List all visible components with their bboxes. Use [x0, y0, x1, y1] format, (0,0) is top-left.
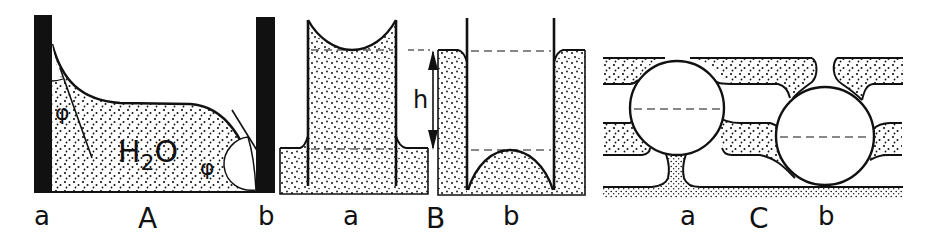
sphere-a — [630, 61, 724, 155]
container-a-surface-left — [280, 136, 308, 148]
bottom-plate-line-left — [603, 154, 669, 187]
panel-label: A — [138, 202, 157, 235]
wall-left — [34, 15, 52, 193]
bottom-bridge — [652, 154, 700, 187]
container-a-surface-right — [396, 136, 428, 148]
panel-b: h a B b — [280, 18, 585, 235]
sublabel-b: b — [503, 201, 520, 231]
top-plate-bottom-right — [862, 84, 903, 100]
angle-label-left: φ — [55, 100, 70, 125]
tube-b-liquid — [468, 150, 553, 194]
container-b-liquid-left — [438, 50, 467, 194]
container-b-liquid-right — [554, 50, 585, 194]
sublabel-a: a — [680, 201, 696, 231]
panel-a: φ φ H2O a A b — [34, 15, 275, 235]
tube-a-liquid — [308, 20, 396, 194]
capillarity-figure: φ φ H2O a A b h — [0, 0, 931, 240]
panel-label: B — [426, 202, 445, 235]
sublabel-b: b — [818, 201, 835, 231]
height-label: h — [413, 86, 428, 114]
wall-right — [256, 17, 275, 193]
angle-label-right: φ — [200, 155, 215, 180]
bottom-plate-layer — [603, 188, 903, 198]
h-arrow-head-up — [428, 50, 438, 70]
sublabel-b: b — [258, 201, 275, 231]
sphere-b — [776, 87, 874, 185]
panel-c: a C b — [603, 58, 903, 235]
sublabel-a: a — [343, 201, 359, 231]
h-arrow-head-down — [428, 130, 438, 150]
panel-label: C — [749, 202, 769, 235]
sublabel-a: a — [34, 201, 50, 231]
